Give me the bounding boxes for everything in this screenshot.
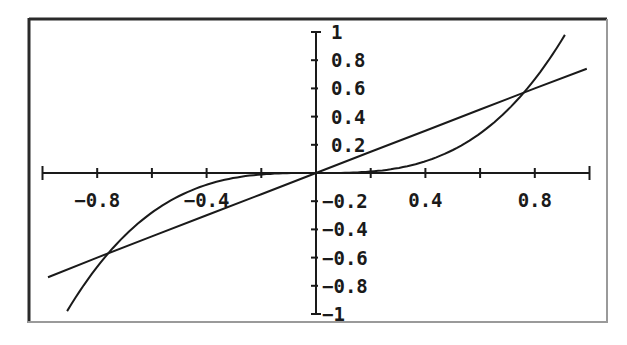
y-tick-label: −0.4: [322, 218, 368, 240]
x-tick-labels: −0.8−0.40.40.8: [74, 189, 552, 211]
plot-frame: [28, 18, 608, 323]
y-tick-label: 0.2: [331, 134, 365, 156]
plot-canvas: −0.8−0.40.40.8 10.80.60.40.2−0.2−0.4−0.6…: [0, 0, 627, 345]
y-tick-label: −1: [322, 303, 345, 325]
y-tick-label: 1: [331, 21, 342, 43]
y-tick-label: −0.6: [322, 247, 368, 269]
x-tick-label: −0.8: [74, 189, 120, 211]
y-tick-label: 0.6: [331, 77, 365, 99]
x-tick-label: 0.8: [518, 189, 552, 211]
y-tick-label: −0.2: [322, 190, 368, 212]
y-tick-label: −0.8: [322, 275, 368, 297]
x-tick-label: −0.4: [184, 189, 230, 211]
x-tick-label: 0.4: [408, 189, 442, 211]
y-tick-label: 0.4: [331, 106, 365, 128]
y-tick-label: 0.8: [331, 49, 365, 71]
